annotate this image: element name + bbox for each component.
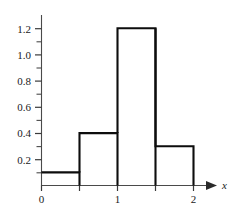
x-axis-label: x bbox=[221, 179, 227, 191]
x-tick-label-2: 2 bbox=[191, 193, 197, 205]
y-tick-label-1.2: 1.2 bbox=[17, 23, 31, 35]
chart-canvas: 0.2 0.4 0.6 0.8 1.0 1.2 x 0 1 bbox=[0, 0, 241, 209]
y-tick-label-0.2: 0.2 bbox=[17, 154, 31, 166]
histogram-chart: 0.2 0.4 0.6 0.8 1.0 1.2 x 0 1 bbox=[0, 0, 241, 209]
y-tick-label-1.0: 1.0 bbox=[17, 49, 31, 61]
x-tick-label-1: 1 bbox=[115, 193, 121, 205]
chart-background bbox=[0, 0, 241, 209]
y-tick-label-0.6: 0.6 bbox=[17, 101, 31, 113]
x-tick-label-0: 0 bbox=[39, 193, 45, 205]
y-tick-label-0.4: 0.4 bbox=[17, 127, 31, 139]
y-tick-label-0.8: 0.8 bbox=[17, 75, 31, 87]
